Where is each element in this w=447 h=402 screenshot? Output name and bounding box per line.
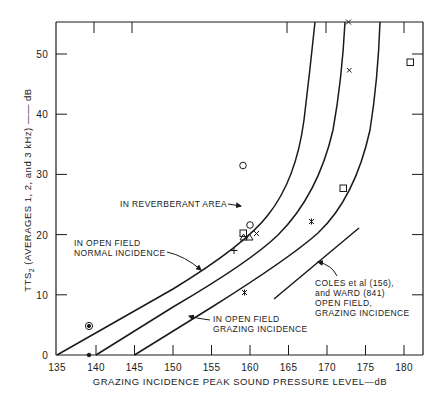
x-tick-label: 155	[203, 362, 221, 373]
x-tick-label: 140	[87, 362, 105, 373]
y-tick-label: 50	[36, 49, 48, 60]
tts-chart: 135 140 145 150 155 160 165 170 175 180 …	[0, 0, 447, 402]
annotation-normal-2: NORMAL INCIDENCE	[74, 248, 166, 258]
y-tick-label: 10	[36, 290, 48, 301]
x-tick-label: 175	[357, 362, 375, 373]
y-axis-ticks	[56, 54, 67, 295]
asterisk-marker	[309, 219, 314, 225]
x-marker	[347, 68, 352, 73]
annotation-normal-1: IN OPEN FIELD	[74, 238, 141, 248]
annotation-coles-1: COLES et al (156),	[315, 278, 394, 288]
y-tick-labels: 0 10 20 30 40 50	[36, 49, 48, 361]
x-tick-label: 150	[164, 362, 182, 373]
curve-reverberant	[57, 22, 315, 355]
annotation-grazing-1: IN OPEN FIELD	[213, 314, 280, 324]
x-axis-top-ticks	[94, 22, 404, 33]
curve-open-normal	[96, 22, 345, 355]
annotations: IN REVERBERANT AREA IN OPEN FIELD NORMAL…	[74, 199, 410, 334]
x-tick-label: 165	[280, 362, 298, 373]
x-tick-label: 160	[241, 362, 259, 373]
y-tick-label: 0	[42, 350, 48, 361]
square-marker	[340, 185, 347, 192]
annotation-reverberant: IN REVERBERANT AREA	[120, 199, 227, 209]
y-tick-label: 20	[36, 230, 48, 241]
dot-marker	[87, 324, 90, 327]
x-tick-label: 145	[126, 362, 144, 373]
x-tick-label: 180	[395, 362, 413, 373]
x-tick-label: 170	[318, 362, 336, 373]
y-axis-right-ticks	[412, 54, 423, 295]
x-tick-label: 135	[48, 362, 66, 373]
x-marker	[254, 231, 259, 236]
annotation-grazing-2: GRAZING INCIDENCE	[213, 324, 308, 334]
circle-marker	[247, 222, 254, 229]
y-tick-label: 30	[36, 169, 48, 180]
circle-marker	[240, 162, 247, 169]
asterisk-marker	[242, 290, 247, 296]
annotation-coles-3: OPEN FIELD,	[315, 298, 372, 308]
dot-marker	[87, 353, 91, 357]
plus-marker	[231, 247, 238, 254]
square-marker	[240, 230, 247, 237]
square-marker	[407, 59, 414, 66]
y-axis-title: TTS2 (AVERAGES 1, 2, and 3 kHz) —— dB	[22, 88, 35, 291]
y-tick-label: 40	[36, 109, 48, 120]
x-tick-labels: 135 140 145 150 155 160 165 170 175 180	[48, 362, 413, 373]
x-axis-title: GRAZING INCIDENCE PEAK SOUND PRESSURE LE…	[93, 376, 387, 387]
annotation-coles-2: and WARD (841)	[315, 288, 385, 298]
annotation-coles-4: GRAZING INCIDENCE	[315, 308, 410, 318]
